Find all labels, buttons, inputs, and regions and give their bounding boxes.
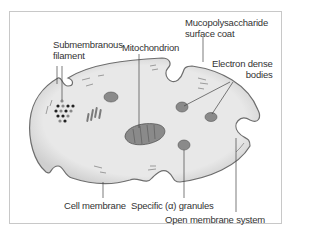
electron-dense-body-2 [205,113,217,122]
electron-dense-body-1 [176,102,188,112]
granule-upper-left [104,92,118,102]
label-open-membrane-system: Open membrane system [165,214,265,225]
label-mitochondrion: Mitochondrion [122,42,179,53]
label-mucopolysaccharide-surface-coat: Mucopolysaccharide surface coat [185,17,268,39]
label-cell-membrane: Cell membrane [64,200,126,211]
label-specific-granules: Specific (α) granules [131,200,214,211]
specific-granule [178,140,190,150]
label-electron-dense-bodies: Electron dense bodies [212,58,273,80]
label-submembranous-filament: Submembranous filament [53,39,123,61]
